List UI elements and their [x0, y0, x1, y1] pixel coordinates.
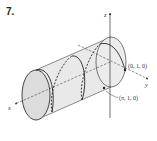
cylinder [22, 37, 126, 120]
x-axis-label: x [7, 104, 11, 111]
y-axis-label: y [144, 81, 148, 88]
problem-number: 7. [6, 6, 15, 17]
z-axis-label: z [103, 11, 107, 18]
helix-cylinder-diagram: 7. z x y (0, 1, 0) (π, 1, 0) [0, 0, 157, 141]
point-label-pi-1-0: (π, 1, 0) [119, 95, 138, 102]
point-pi-1-0 [103, 87, 105, 89]
leader-line [106, 91, 118, 98]
point-label-0-1-0: (0, 1, 0) [128, 63, 147, 70]
point-0-1-0 [124, 69, 126, 71]
